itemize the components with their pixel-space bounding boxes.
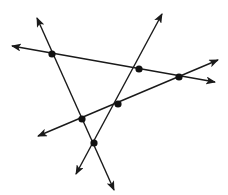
intersection-point-p4 bbox=[114, 100, 121, 107]
lines-layer bbox=[12, 14, 218, 190]
line-d bbox=[76, 14, 162, 174]
intersection-point-p1 bbox=[48, 50, 55, 57]
line-a bbox=[37, 18, 114, 190]
line-c bbox=[38, 60, 218, 136]
intersection-point-p2 bbox=[135, 65, 142, 72]
diagram-canvas bbox=[0, 0, 228, 195]
line-b bbox=[12, 46, 215, 82]
intersection-point-p3 bbox=[175, 73, 182, 80]
intersection-point-p5 bbox=[78, 115, 85, 122]
intersection-point-p6 bbox=[90, 139, 97, 146]
